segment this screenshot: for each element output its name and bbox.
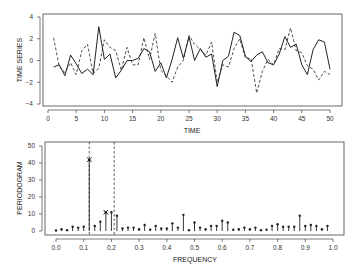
periodogram-point [138, 228, 140, 230]
periodogram-point [260, 229, 262, 231]
periodogram-point [215, 225, 217, 227]
periodogram-point [71, 226, 73, 228]
x-tick-label: 5 [74, 115, 78, 122]
time-series-plot-frame [43, 14, 342, 106]
periodogram-y-axis: 01020304050 [28, 142, 42, 234]
periodogram-point [127, 226, 129, 228]
periodogram-point [271, 225, 273, 227]
periodogram-point [177, 226, 179, 228]
y-tick-label: 30 [28, 176, 36, 183]
periodogram-point [193, 221, 195, 223]
periodogram-point [116, 215, 118, 217]
periodogram-point [83, 226, 85, 228]
time-x-axis-title: TIME [184, 127, 201, 134]
y-tick-label: 40 [28, 159, 36, 166]
time-series-panel: 05101520253035404550 −4−2024 TIME TIME S… [16, 13, 342, 134]
x-tick-label: 15 [129, 115, 137, 122]
time-series-y-axis: −4−2024 [26, 13, 40, 107]
y-tick-label: −2 [26, 79, 34, 86]
frequency-x-axis-title: FREQUENCY [173, 256, 217, 264]
periodogram-point [121, 227, 123, 229]
periodogram-point [160, 227, 162, 229]
periodogram-point [155, 225, 157, 227]
periodogram-point [166, 227, 168, 229]
frequency-x-axis: 0.00.10.20.30.40.50.60.70.80.91.0 [51, 239, 337, 251]
periodogram-panel: 0.00.10.20.30.40.50.60.70.80.91.0 010203… [16, 142, 344, 264]
periodogram-point [210, 225, 212, 227]
x-tick-label: 25 [185, 115, 193, 122]
periodogram-point [254, 226, 256, 228]
x-tick-label: 0.1 [79, 244, 88, 251]
x-tick-label: 0.4 [162, 244, 171, 251]
x-tick-label: 50 [326, 115, 334, 122]
x-tick-label: 0.3 [135, 244, 144, 251]
periodogram-plot-frame [45, 142, 344, 235]
periodogram-point [221, 220, 223, 222]
periodogram-point [326, 225, 328, 227]
periodogram-point [66, 229, 68, 231]
periodogram-point [171, 222, 173, 224]
time-x-axis: 05101520253035404550 [46, 110, 334, 122]
y-tick-label: 20 [28, 193, 36, 200]
x-tick-label: 10 [101, 115, 109, 122]
periodogram-point [265, 228, 267, 230]
periodogram-point [293, 226, 295, 228]
x-tick-label: 0 [46, 115, 50, 122]
x-tick-label: 35 [242, 115, 250, 122]
periodogram-point [77, 226, 79, 228]
periodogram-point [60, 228, 62, 230]
y-tick-label: 0 [29, 57, 33, 64]
y-tick-label: 2 [29, 35, 33, 42]
periodogram-point [182, 214, 184, 216]
y-tick-label: 10 [28, 210, 36, 217]
x-tick-label: 0.6 [218, 244, 227, 251]
y-tick-label: −4 [26, 100, 34, 107]
periodogram-stems [55, 142, 329, 235]
periodogram-point [149, 228, 151, 230]
periodogram-point [249, 228, 251, 230]
x-tick-label: 0.7 [245, 244, 254, 251]
x-tick-label: 0.0 [51, 244, 60, 251]
periodogram-point [188, 229, 190, 231]
x-tick-label: 45 [298, 115, 306, 122]
x-tick-label: 20 [157, 115, 165, 122]
periodogram-point [304, 225, 306, 227]
periodogram-point [99, 220, 101, 222]
periodogram-point [243, 226, 245, 228]
x-tick-label: 40 [270, 115, 278, 122]
periodogram-point [282, 226, 284, 228]
periodogram-y-axis-title: PERIODOGRAM [16, 161, 23, 214]
periodogram-point [287, 226, 289, 228]
periodogram-point [199, 226, 201, 228]
x-tick-label: 0.9 [301, 244, 310, 251]
y-tick-label: 4 [29, 13, 33, 20]
periodogram-point [94, 225, 96, 227]
x-tick-label: 30 [214, 115, 222, 122]
x-tick-label: 0.2 [107, 244, 116, 251]
time-series-y-axis-title: TIME SERIES [16, 37, 23, 82]
periodogram-point [315, 225, 317, 227]
y-tick-label: 0 [31, 227, 35, 234]
periodogram-point [232, 228, 234, 230]
periodogram-point [204, 228, 206, 230]
x-tick-label: 1.0 [328, 244, 337, 251]
periodogram-point [143, 224, 145, 226]
figure: 05101520253035404550 −4−2024 TIME TIME S… [0, 0, 359, 274]
x-tick-label: 0.5 [190, 244, 199, 251]
periodogram-point [110, 211, 112, 213]
time-series-lines [54, 27, 330, 93]
periodogram-point [55, 229, 57, 231]
periodogram-point [299, 215, 301, 217]
periodogram-point [276, 223, 278, 225]
x-tick-label: 0.8 [273, 244, 282, 251]
periodogram-point [238, 228, 240, 230]
periodogram-point [321, 228, 323, 230]
y-tick-label: 50 [28, 142, 36, 149]
periodogram-point [310, 224, 312, 226]
periodogram-point [227, 221, 229, 223]
periodogram-point [132, 226, 134, 228]
